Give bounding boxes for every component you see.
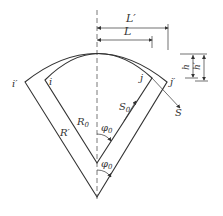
diagram-canvas: L′ L h h′ i′ i j j′ S S0 R0 R′ φ0 φ0 (0, 0, 223, 216)
label-L: L (123, 25, 131, 38)
label-j: j (138, 72, 143, 83)
label-R0: R0 (76, 116, 90, 129)
label-phi0-upper: φ0 (101, 122, 113, 135)
label-R-prime: R′ (59, 127, 71, 138)
label-i-prime: i′ (12, 78, 18, 89)
label-i: i (49, 76, 52, 87)
label-phi0-lower: φ0 (101, 158, 113, 171)
label-S0: S0 (119, 101, 131, 114)
label-L-prime: L′ (125, 12, 136, 25)
label-h-prime: h′ (192, 62, 202, 70)
label-h: h (181, 64, 191, 70)
label-S: S (175, 107, 182, 118)
label-j-prime: j′ (168, 76, 176, 87)
inner-wedge (45, 53, 152, 163)
S-arrow (152, 78, 180, 108)
outer-wedge (25, 54, 167, 198)
phi0-lower-arc (97, 170, 111, 177)
phi0-upper-arc (97, 134, 111, 141)
wedge-diagram: L′ L h h′ i′ i j j′ S S0 R0 R′ φ0 φ0 (0, 0, 223, 216)
